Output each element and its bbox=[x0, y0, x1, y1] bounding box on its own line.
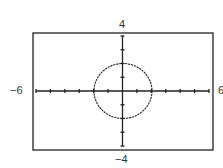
graph-window bbox=[0, 0, 223, 168]
axes bbox=[36, 36, 209, 146]
